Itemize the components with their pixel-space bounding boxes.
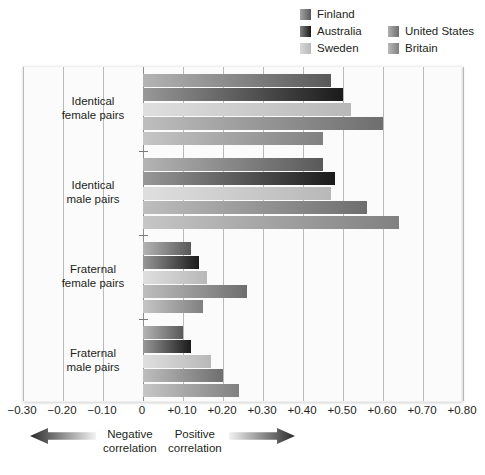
bar-sweden-identical-female-pairs <box>143 103 351 116</box>
category-label-line: male pairs <box>37 361 149 375</box>
negative-correlation-note: Negative correlation <box>30 428 157 455</box>
legend-item-australia: Australia <box>300 23 362 40</box>
x-tick-label-0: 0 <box>139 404 145 417</box>
bar-finland-fraternal-female-pairs <box>143 242 191 255</box>
legend-swatch-finland <box>300 9 311 20</box>
positive-correlation-text: Positive correlation <box>168 428 222 455</box>
legend-column-right: United States Britain <box>388 23 474 57</box>
gridline-0_8 <box>463 67 464 401</box>
bar-britain-fraternal-female-pairs <box>143 300 203 313</box>
bar-finland-fraternal-male-pairs <box>143 326 183 339</box>
x-tick-label-0_2: +0.20 <box>207 404 236 417</box>
x-tick-label-0_6: +0.60 <box>367 404 396 417</box>
category-label-fraternal-female-pairs: Fraternalfemale pairs <box>37 263 149 290</box>
chart-x-axis: −0.30−0.20−0.100+0.10+0.20+0.30+0.40+0.5… <box>0 404 485 426</box>
bar-australia-fraternal-male-pairs <box>143 340 191 353</box>
chart-footer-legend: Negative correlation Positive correlatio… <box>0 428 485 472</box>
x-tick-label-neg0_1: −0.10 <box>87 404 116 417</box>
bar-finland-identical-male-pairs <box>143 158 323 171</box>
bar-united-states-fraternal-male-pairs <box>143 369 223 382</box>
positive-correlation-line2: correlation <box>168 442 222 454</box>
legend-swatch-britain <box>388 43 399 54</box>
bar-australia-identical-male-pairs <box>143 172 335 185</box>
bar-britain-identical-male-pairs <box>143 216 399 229</box>
negative-correlation-text: Negative correlation <box>103 428 157 455</box>
legend-label-britain: Britain <box>405 43 438 54</box>
x-tick-label-0_5: +0.50 <box>327 404 356 417</box>
bar-united-states-identical-female-pairs <box>143 117 383 130</box>
legend-swatch-sweden <box>300 43 311 54</box>
x-tick-label-0_8: +0.80 <box>447 404 476 417</box>
bar-australia-identical-female-pairs <box>143 88 343 101</box>
category-label-line: male pairs <box>37 193 149 207</box>
category-label-fraternal-male-pairs: Fraternalmale pairs <box>37 347 149 374</box>
category-label-line: Fraternal <box>37 347 149 361</box>
bar-sweden-fraternal-male-pairs <box>143 355 211 368</box>
legend-item-britain: Britain <box>388 40 474 57</box>
legend-item-sweden: Sweden <box>300 40 362 57</box>
arrow-left-icon <box>30 428 96 444</box>
category-label-identical-male-pairs: Identicalmale pairs <box>37 179 149 206</box>
bar-united-states-identical-male-pairs <box>143 201 367 214</box>
legend-column-left: Finland Australia Sweden <box>300 6 362 57</box>
category-label-line: Identical <box>37 95 149 109</box>
bar-sweden-fraternal-female-pairs <box>143 271 207 284</box>
legend-label-sweden: Sweden <box>317 43 359 54</box>
legend-swatch-united-states <box>388 26 399 37</box>
category-label-line: Fraternal <box>37 263 149 277</box>
chart-plot-area: Identicalfemale pairsIdenticalmale pairs… <box>22 66 462 402</box>
bar-united-states-fraternal-female-pairs <box>143 285 247 298</box>
category-label-line: Identical <box>37 179 149 193</box>
bar-britain-identical-female-pairs <box>143 132 323 145</box>
bar-britain-fraternal-male-pairs <box>143 384 239 397</box>
x-tick-label-0_7: +0.70 <box>407 404 436 417</box>
positive-correlation-line1: Positive <box>175 428 215 440</box>
x-tick-label-0_1: +0.10 <box>167 404 196 417</box>
legend-item-united-states: United States <box>388 23 474 40</box>
positive-correlation-note: Positive correlation <box>168 428 295 455</box>
x-tick-label-neg0_2: −0.20 <box>47 404 76 417</box>
negative-correlation-line1: Negative <box>107 428 152 440</box>
legend-label-australia: Australia <box>317 26 362 37</box>
x-tick-label-neg0_3: −0.30 <box>7 404 36 417</box>
category-label-line: female pairs <box>37 277 149 291</box>
negative-correlation-line2: correlation <box>103 442 157 454</box>
chart-legend: Finland Australia Sweden United States B… <box>300 6 485 58</box>
x-tick-label-0_3: +0.30 <box>247 404 276 417</box>
category-label-line: female pairs <box>37 109 149 123</box>
legend-item-finland: Finland <box>300 6 362 23</box>
legend-swatch-australia <box>300 26 311 37</box>
x-tick-label-0_4: +0.40 <box>287 404 316 417</box>
bar-australia-fraternal-female-pairs <box>143 256 199 269</box>
legend-label-united-states: United States <box>405 26 474 37</box>
bar-sweden-identical-male-pairs <box>143 187 331 200</box>
arrow-right-icon <box>229 428 295 444</box>
legend-label-finland: Finland <box>317 9 355 20</box>
bar-finland-identical-female-pairs <box>143 74 331 87</box>
category-label-identical-female-pairs: Identicalfemale pairs <box>37 95 149 122</box>
